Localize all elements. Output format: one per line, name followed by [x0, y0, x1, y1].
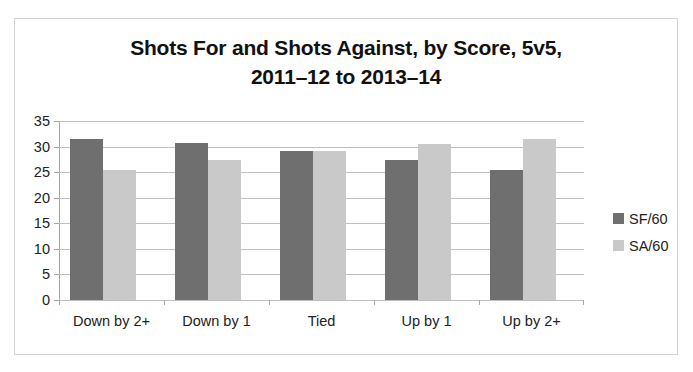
chart-title-line-2: 2011–12 to 2013–14 [15, 62, 677, 91]
bar-sf[interactable] [280, 151, 313, 300]
bar-group: Down by 2+ [59, 121, 164, 300]
bars-layer: Down by 2+Down by 1TiedUp by 1Up by 2+ [59, 121, 584, 300]
x-axis-label: Tied [308, 313, 336, 329]
x-axis-tick [164, 300, 165, 305]
chart-legend: SF/60 SA/60 [613, 205, 669, 259]
bar-sf[interactable] [490, 170, 523, 300]
legend-item-sf[interactable]: SF/60 [613, 205, 669, 232]
chart-container: Shots For and Shots Against, by Score, 5… [14, 18, 678, 355]
x-axis-label: Up by 2+ [502, 313, 560, 329]
legend-label-sa: SA/60 [629, 238, 669, 254]
x-axis-tick [479, 300, 480, 305]
y-axis-label: 0 [42, 292, 50, 308]
bar-group: Down by 1 [164, 121, 269, 300]
gridline [59, 300, 584, 301]
bar-sa[interactable] [523, 139, 556, 300]
bar-sa[interactable] [208, 160, 241, 300]
chart-title-line-1: Shots For and Shots Against, by Score, 5… [15, 33, 677, 62]
legend-swatch-icon-sf [613, 213, 624, 224]
x-axis-label: Down by 2+ [73, 313, 150, 329]
bar-group: Tied [269, 121, 374, 300]
bar-sf[interactable] [70, 139, 103, 300]
chart-title: Shots For and Shots Against, by Score, 5… [15, 33, 677, 91]
legend-item-sa[interactable]: SA/60 [613, 232, 669, 259]
bar-sf[interactable] [175, 143, 208, 300]
x-axis-tick [269, 300, 270, 305]
x-axis-tick [374, 300, 375, 305]
bar-sa[interactable] [313, 151, 346, 300]
y-axis-label: 35 [34, 113, 50, 129]
y-axis-label: 20 [34, 190, 50, 206]
y-axis-label: 30 [34, 139, 50, 155]
y-axis-label: 10 [34, 241, 50, 257]
y-axis-label: 5 [42, 266, 50, 282]
x-axis-tick [59, 300, 60, 305]
bar-group: Up by 2+ [479, 121, 584, 300]
legend-label-sf: SF/60 [629, 211, 668, 227]
x-axis-tick [583, 300, 584, 305]
bar-sf[interactable] [385, 160, 418, 300]
x-axis-label: Up by 1 [402, 313, 452, 329]
y-axis-label: 25 [34, 164, 50, 180]
bar-sa[interactable] [103, 170, 136, 300]
bar-sa[interactable] [418, 144, 451, 300]
y-axis-label: 15 [34, 215, 50, 231]
x-axis-label: Down by 1 [182, 313, 251, 329]
bar-group: Up by 1 [374, 121, 479, 300]
plot-area: 05101520253035 Down by 2+Down by 1TiedUp… [59, 121, 584, 300]
legend-swatch-icon-sa [613, 240, 624, 251]
